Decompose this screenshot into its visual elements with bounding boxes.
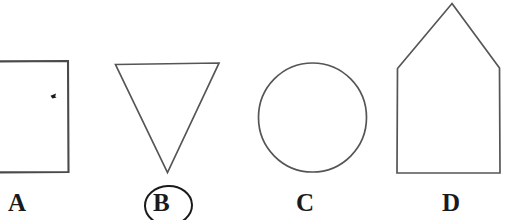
square-outline [0, 61, 69, 173]
shape-c-circle[interactable] [259, 63, 367, 172]
inverted-triangle-outline [116, 63, 220, 173]
option-label-a[interactable]: A [8, 190, 26, 215]
circle-outline [259, 63, 367, 172]
option-label-d[interactable]: D [442, 190, 460, 215]
shapes-illustration [0, 0, 508, 220]
house-pentagon-outline [397, 4, 500, 174]
option-label-c[interactable]: C [296, 190, 314, 215]
figure-canvas: A B C D [0, 0, 508, 220]
shape-d-house-pentagon[interactable] [397, 4, 500, 174]
stray-pen-mark [51, 94, 57, 99]
option-label-b[interactable]: B [153, 190, 170, 215]
shape-b-inverted-triangle[interactable] [116, 63, 220, 173]
shape-a-square[interactable] [0, 61, 69, 173]
